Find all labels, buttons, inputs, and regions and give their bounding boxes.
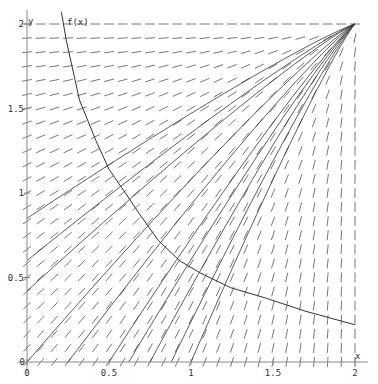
slope-dash [119, 162, 127, 168]
slope-dash [175, 315, 180, 324]
slope-dash [313, 188, 315, 198]
slope-dash [355, 61, 356, 71]
slope-dash [51, 274, 58, 281]
slope-dash [119, 218, 126, 225]
slope-dash [63, 93, 73, 96]
slope-dash [244, 329, 247, 339]
slope-dash [91, 190, 99, 196]
slope-dash [120, 302, 126, 310]
slope-dash [146, 204, 153, 211]
slope-dash [327, 315, 328, 325]
slope-dash [227, 64, 236, 68]
slope-dash [105, 204, 113, 210]
slope-dash [230, 231, 235, 240]
curve-label-fx: f(x) [67, 17, 89, 27]
slope-dash [36, 135, 45, 139]
slope-dash [271, 231, 274, 240]
slope-dash [118, 93, 127, 96]
slope-dash [37, 302, 44, 309]
slope-dash [200, 78, 209, 82]
slope-dash [227, 37, 237, 38]
slope-dash [216, 217, 221, 226]
slope-dash [327, 273, 328, 283]
slope-dash [159, 134, 167, 140]
slope-dash [187, 106, 196, 111]
slope-dash [313, 301, 314, 311]
slope-dash [174, 162, 181, 169]
slope-dash [341, 118, 342, 128]
slope-dash [174, 231, 180, 239]
slope-dash [36, 38, 46, 39]
slope-dash [299, 160, 302, 169]
slope-dash [133, 302, 139, 310]
slope-dash [64, 176, 73, 181]
slope-dash [36, 163, 45, 167]
slope-dash [228, 92, 236, 97]
slope-dash [77, 38, 87, 39]
slope-dash [203, 301, 207, 310]
slope-dash [161, 273, 167, 281]
slope-dash [65, 330, 71, 338]
slope-dash [272, 329, 274, 339]
slope-dash [147, 287, 153, 295]
slope-dash [37, 218, 45, 224]
slope-dash [214, 119, 222, 125]
slope-dash [189, 301, 194, 310]
slope-dash [119, 176, 127, 182]
slope-dash [64, 149, 73, 153]
slope-dash [160, 189, 167, 196]
slope-dash [285, 216, 288, 226]
slope-dash [78, 246, 85, 253]
slope-dash [217, 343, 221, 352]
slope-dash [296, 37, 306, 40]
x-tick-label: 0 [24, 368, 29, 378]
y-tick-label: 2 [19, 19, 24, 29]
slope-dash [285, 245, 288, 255]
solution-curve [27, 24, 355, 261]
slope-dash [230, 329, 233, 338]
slope-dash [79, 330, 85, 338]
slope-dash [146, 148, 154, 154]
slope-dash [133, 190, 141, 197]
slope-dash [147, 315, 152, 324]
slope-dash [37, 344, 44, 352]
slope-dash [36, 121, 45, 124]
slope-dash [313, 146, 316, 156]
slope-dash [36, 66, 46, 67]
slope-dash [229, 161, 235, 169]
slope-dash [78, 288, 85, 295]
slope-dash [133, 218, 140, 225]
slope-dash [268, 37, 278, 39]
slope-dash [91, 93, 101, 96]
slope-dash [326, 104, 329, 114]
slope-dash [286, 343, 288, 353]
slope-dash [241, 51, 251, 54]
slope-dash [91, 121, 100, 125]
slope-dash [201, 147, 208, 154]
slope-dash [230, 301, 234, 310]
y-tick-label: 0.5 [8, 273, 24, 283]
slope-dash [202, 245, 207, 254]
slope-dash [36, 107, 46, 110]
slope-dash [172, 38, 182, 39]
slope-dash [186, 65, 196, 68]
slope-dash [213, 51, 223, 53]
slope-dash [77, 162, 86, 167]
slope-dash [134, 344, 139, 353]
slope-dash [63, 38, 73, 39]
slope-dash [77, 79, 87, 81]
slope-dash [173, 79, 182, 82]
slope-dash [132, 120, 141, 125]
slope-dash [147, 259, 153, 267]
slope-dash [77, 52, 87, 53]
slope-dash [64, 260, 71, 267]
solution-curve [27, 24, 355, 218]
slope-dash [326, 90, 329, 99]
slope-dash [313, 216, 315, 226]
slope-dash [78, 274, 85, 281]
slope-dash [309, 36, 318, 40]
slope-dash [120, 274, 126, 282]
slope-dash [51, 288, 58, 295]
slope-dash [105, 232, 112, 239]
slope-dash [145, 106, 154, 110]
